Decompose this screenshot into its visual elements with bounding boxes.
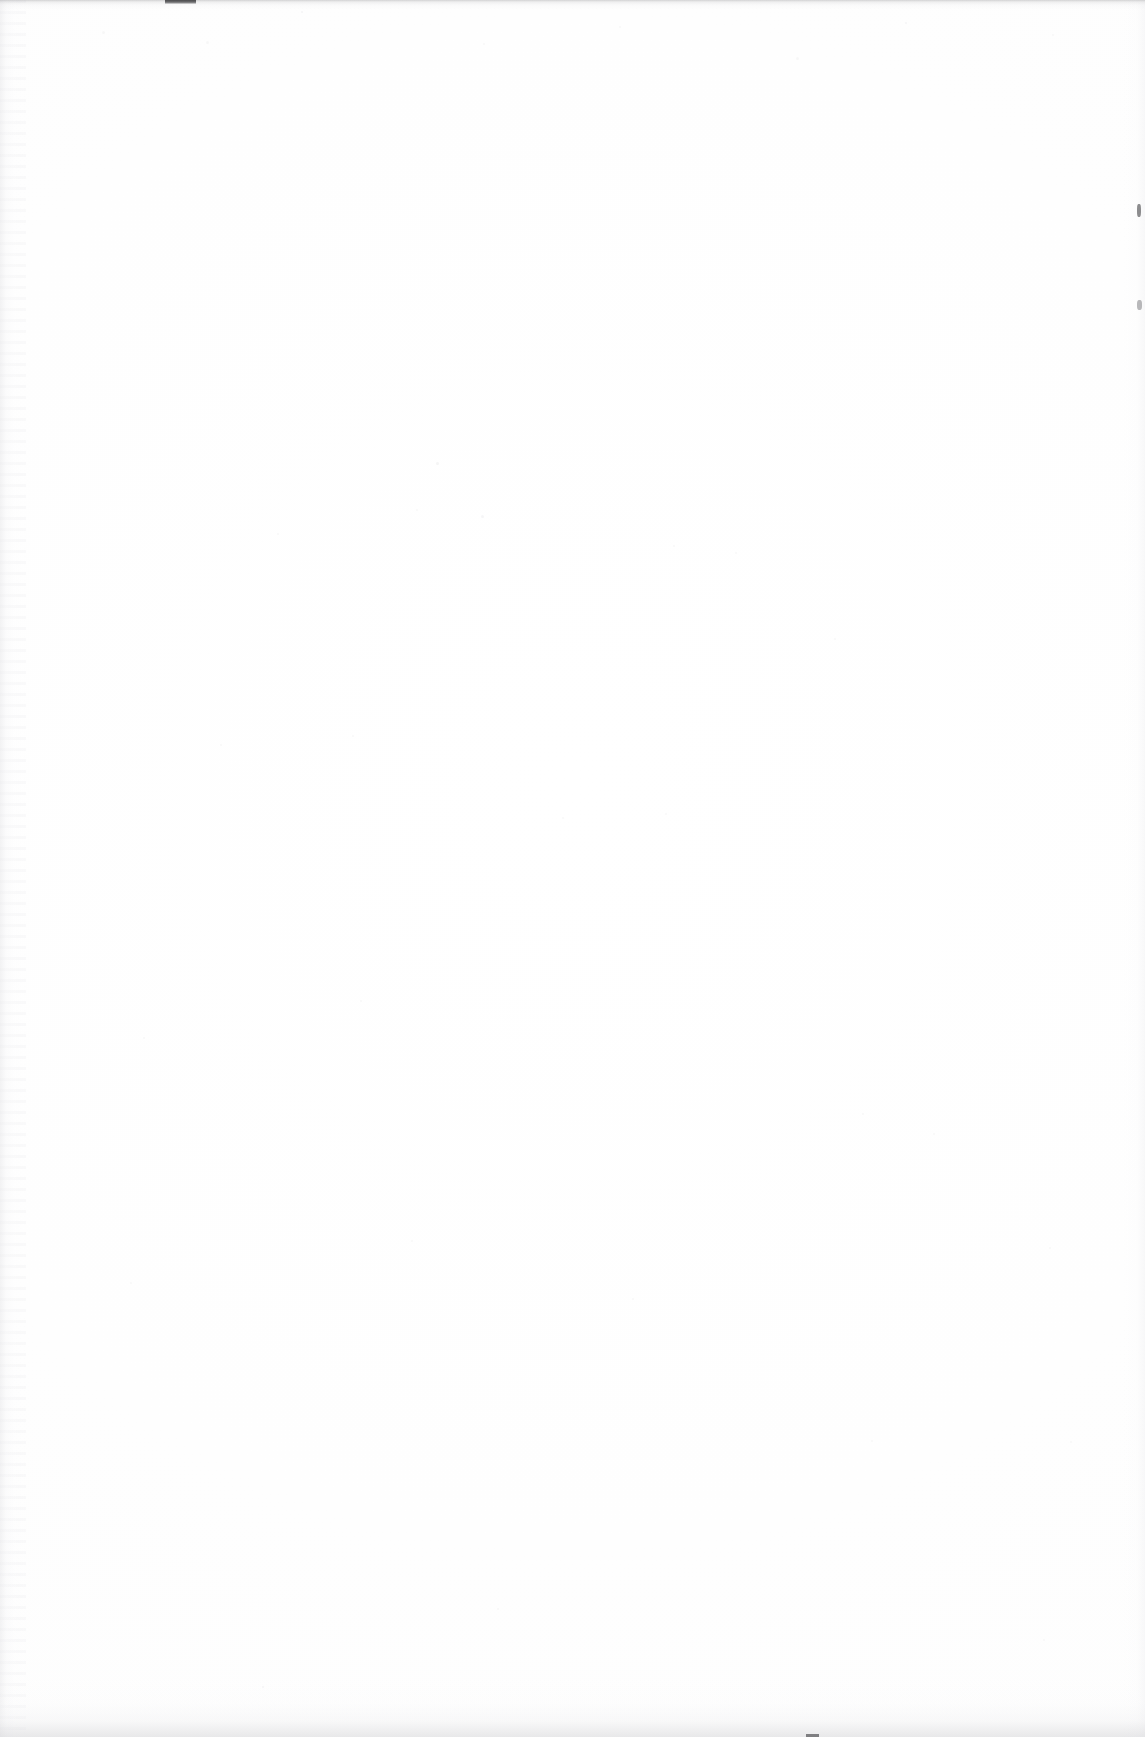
page-content	[0, 0, 1145, 1737]
scanned-page	[0, 0, 1145, 1737]
